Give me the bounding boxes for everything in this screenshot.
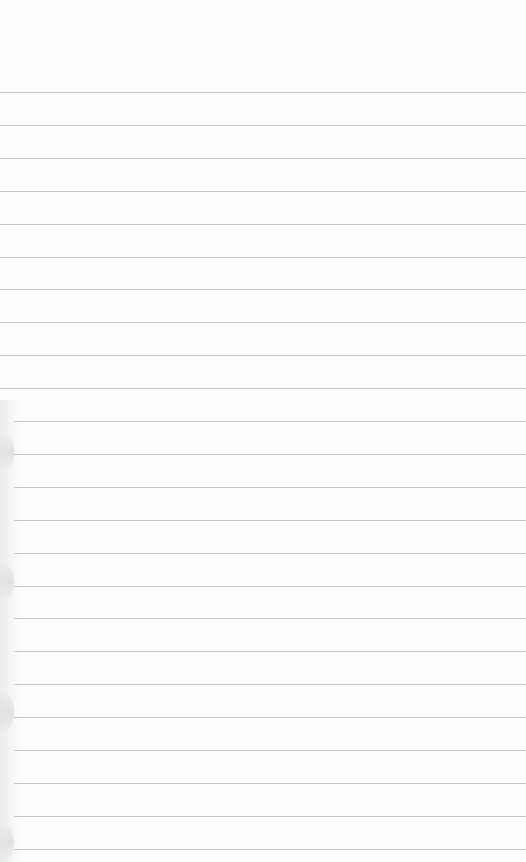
ruled-line [14, 586, 526, 587]
ruled-line [14, 717, 526, 718]
ruled-line [14, 487, 526, 488]
ruled-line [14, 849, 526, 850]
ruled-line [14, 651, 526, 652]
ruled-line [0, 224, 526, 225]
ruled-line [0, 257, 526, 258]
ruled-line [14, 520, 526, 521]
ruled-line [0, 92, 526, 93]
ruled-line [0, 322, 526, 323]
lined-paper [0, 0, 526, 862]
ruled-line [0, 158, 526, 159]
ruled-line [0, 388, 526, 389]
ruled-line [0, 191, 526, 192]
ruled-line [14, 454, 526, 455]
ruled-line [14, 816, 526, 817]
ruled-line [14, 618, 526, 619]
ruled-line [0, 355, 526, 356]
ruled-line [14, 750, 526, 751]
ruled-line [14, 421, 526, 422]
ruled-line [14, 553, 526, 554]
ruled-line [0, 125, 526, 126]
ruled-line [14, 684, 526, 685]
ruled-line [0, 289, 526, 290]
ruled-line [14, 783, 526, 784]
